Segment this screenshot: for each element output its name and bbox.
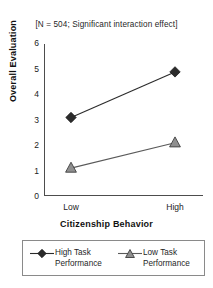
data-point-high-low <box>66 112 76 122</box>
triangle-marker-icon <box>117 248 143 259</box>
y-tick-label-6: 6 <box>17 39 39 48</box>
legend-label-high: High Task Performance <box>55 247 102 269</box>
legend-entry-low-task-performance: Low Task Performance <box>117 247 190 269</box>
y-tick-label-4: 4 <box>17 90 39 99</box>
x-tick-label-low: Low <box>41 203 101 212</box>
axes-and-series <box>44 44 203 196</box>
legend-label-high-line2: Performance <box>55 258 102 269</box>
legend-label-high-line1: High Task <box>55 247 102 258</box>
series-low-task-performance <box>66 137 181 172</box>
legend-label-low: Low Task Performance <box>143 247 190 269</box>
series-high-task-performance <box>66 67 180 123</box>
legend-label-low-line1: Low Task <box>143 247 190 258</box>
legend-entry-high-task-performance: High Task Performance <box>29 247 102 269</box>
diamond-marker-icon <box>29 248 55 259</box>
series-low-line <box>71 143 175 168</box>
data-point-high-high <box>170 67 180 77</box>
series-high-line <box>71 72 175 118</box>
chart-title: [N = 504; Significant interaction effect… <box>0 20 213 30</box>
x-axis-title: Citizenship Behavior <box>0 219 213 229</box>
y-tick-label-5: 5 <box>17 65 39 74</box>
interaction-plot-figure: [N = 504; Significant interaction effect… <box>0 0 213 288</box>
legend-label-low-line2: Performance <box>143 258 190 269</box>
y-tick-label-2: 2 <box>17 141 39 150</box>
y-tick-label-1: 1 <box>17 167 39 176</box>
data-point-low-high <box>170 137 181 147</box>
plot-area <box>44 44 203 196</box>
y-tick-label-3: 3 <box>17 116 39 125</box>
legend: High Task Performance Low Task Performan… <box>22 240 205 276</box>
y-tick-label-0: 0 <box>17 192 39 201</box>
x-tick-label-high: High <box>145 203 205 212</box>
